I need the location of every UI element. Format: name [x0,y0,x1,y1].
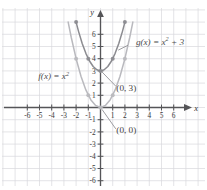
y-tick-label: -5 [90,164,96,173]
f-function-label-text: f(x) = x [38,71,67,81]
y-tick-label: -6 [90,176,96,185]
g-function-label-tail: + 3 [169,37,185,47]
axis-name-labels: xy [89,8,198,113]
x-tick-label: 5 [160,111,164,120]
y-intercept-f-label: (0, 0) [116,125,136,135]
f-function-label: f(x) = x2 [38,70,69,81]
y-tick-label: 2 [92,79,96,88]
x-tick-label: -4 [49,111,55,120]
y-tick-label: 5 [92,42,96,51]
grid-lines [2,8,205,186]
g-function-label-text: g(x) = x [136,37,167,47]
coordinate-plane-svg: -6-5-4-3-2-1123456654321-1-2-3-4-5-6 g(x… [0,0,207,190]
y-tick-label: -3 [90,140,96,149]
y-intercept-g-label: (0, 3) [116,83,136,93]
x-tick-label: -5 [36,111,42,120]
y-tick-label: 1 [92,91,96,100]
x-tick-label: 6 [172,111,176,120]
y-tick-label: 4 [92,54,96,63]
x-tick-label: 3 [135,111,139,120]
annotation-labels: g(x) = x2 + 3f(x) = x2(0, 3)(0, 0) [38,35,184,135]
x-tick-label: -3 [61,111,67,120]
y-tick-label: -2 [90,128,96,137]
g-function-label: g(x) = x2 + 3 [136,35,185,46]
x-tick-label: 1 [111,111,115,120]
y-tick-label: 6 [92,30,96,39]
x-tick-label: -6 [24,111,30,120]
x-tick-label: 2 [123,111,127,120]
math-figure-parabolas: -6-5-4-3-2-1123456654321-1-2-3-4-5-6 g(x… [0,0,207,190]
x-axis-label: x [193,104,198,113]
x-tick-label: 4 [147,111,151,120]
y-tick-label: -4 [90,152,96,161]
y-tick-label: -1 [90,115,96,124]
y-axis-label: y [89,8,94,17]
f-function-label-exponent: 2 [66,70,69,77]
x-tick-label: -2 [73,111,79,120]
